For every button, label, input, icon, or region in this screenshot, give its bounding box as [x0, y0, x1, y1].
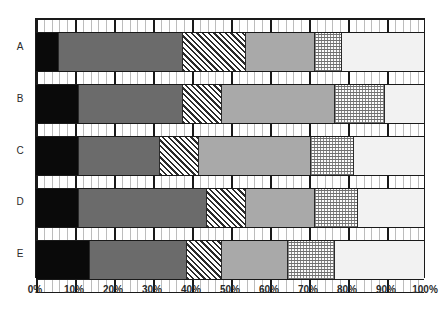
plot-area — [35, 18, 425, 278]
tick-row-3 — [36, 175, 424, 189]
bar-segment-c-2[interactable] — [79, 137, 160, 175]
bar-segment-c-5[interactable] — [311, 137, 354, 175]
bar-segment-c-3[interactable] — [160, 137, 199, 175]
bar-segment-b-1[interactable] — [36, 85, 79, 123]
bar-segment-c-6[interactable] — [354, 137, 424, 175]
bar-segment-d-6[interactable] — [358, 189, 424, 227]
x-tick-label-100: 100% — [403, 284, 447, 295]
x-tick-label-60: 60% — [247, 284, 291, 295]
bar-segment-e-1[interactable] — [36, 241, 90, 279]
bar-segment-b-5[interactable] — [335, 85, 385, 123]
x-tick-label-80: 80% — [325, 284, 369, 295]
bar-segment-a-4[interactable] — [246, 33, 316, 71]
bar-segment-b-4[interactable] — [222, 85, 335, 123]
x-tick-label-90: 90% — [364, 284, 408, 295]
x-axis-labels: 0%10%20%30%40%50%60%70%80%90%100% — [35, 284, 425, 302]
bar-row-d — [36, 189, 424, 227]
bar-segment-d-5[interactable] — [315, 189, 358, 227]
x-tick-label-20: 20% — [91, 284, 135, 295]
bar-segment-d-3[interactable] — [207, 189, 246, 227]
stacked-bar-d[interactable] — [36, 189, 424, 227]
stacked-bar-e[interactable] — [36, 241, 424, 279]
bar-segment-a-3[interactable] — [183, 33, 245, 71]
stacked-bar-c[interactable] — [36, 137, 424, 175]
tick-row-4 — [36, 227, 424, 241]
bar-segment-e-6[interactable] — [335, 241, 424, 279]
x-tick-label-40: 40% — [169, 284, 213, 295]
gap-rule-top — [36, 123, 424, 124]
x-tick-label-70: 70% — [286, 284, 330, 295]
bar-row-e — [36, 241, 424, 279]
y-axis-label-a: A — [10, 41, 30, 52]
bar-segment-d-1[interactable] — [36, 189, 79, 227]
stacked-bar-b[interactable] — [36, 85, 424, 123]
stacked-bar-chart: A B C D E 0%10%20%30%40%50%60%70%80%90%1… — [0, 0, 447, 312]
bar-segment-a-6[interactable] — [342, 33, 423, 71]
gap-rule-top — [36, 71, 424, 72]
bar-row-b — [36, 85, 424, 123]
y-axis-label-c: C — [10, 145, 30, 156]
bar-segment-e-3[interactable] — [187, 241, 222, 279]
bar-segment-a-1[interactable] — [36, 33, 59, 71]
y-axis-label-d: D — [10, 196, 30, 207]
bar-segment-b-6[interactable] — [385, 85, 424, 123]
bar-segment-e-5[interactable] — [288, 241, 335, 279]
gap-rule-top — [36, 279, 424, 280]
tick-row-2 — [36, 123, 424, 137]
stacked-bar-a[interactable] — [36, 33, 424, 71]
gap-rule-top — [36, 19, 424, 20]
x-tick-label-50: 50% — [208, 284, 252, 295]
bar-segment-c-1[interactable] — [36, 137, 79, 175]
gap-rule-top — [36, 175, 424, 176]
x-tick-label-30: 30% — [130, 284, 174, 295]
y-axis-label-b: B — [10, 93, 30, 104]
y-axis-label-e: E — [10, 248, 30, 259]
bar-segment-b-2[interactable] — [79, 85, 184, 123]
bar-segment-a-5[interactable] — [315, 33, 342, 71]
bar-segment-a-2[interactable] — [59, 33, 183, 71]
x-tick-label-0: 0% — [13, 284, 57, 295]
tick-row-top — [36, 19, 424, 33]
bar-row-a — [36, 33, 424, 71]
bar-segment-c-4[interactable] — [199, 137, 312, 175]
bar-segment-e-4[interactable] — [222, 241, 288, 279]
bar-row-c — [36, 137, 424, 175]
bar-segment-d-4[interactable] — [246, 189, 316, 227]
tick-row-1 — [36, 71, 424, 85]
bar-segment-d-2[interactable] — [79, 189, 207, 227]
x-tick-label-10: 10% — [52, 284, 96, 295]
bar-segment-e-2[interactable] — [90, 241, 187, 279]
gap-rule-top — [36, 227, 424, 228]
bar-segment-b-3[interactable] — [183, 85, 222, 123]
